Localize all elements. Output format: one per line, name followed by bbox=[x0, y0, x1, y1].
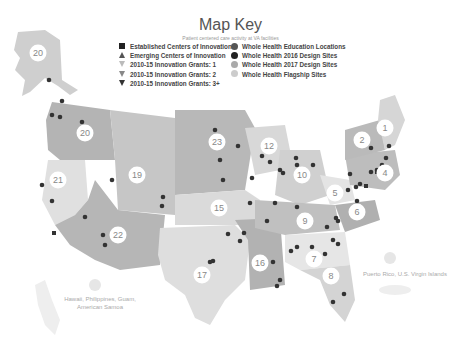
square-icon bbox=[119, 43, 125, 49]
triangle-down-icon bbox=[119, 80, 125, 86]
legend-left: Established Centers of Innovation Emergi… bbox=[118, 42, 232, 88]
legend-item-established: Established Centers of Innovation bbox=[118, 42, 232, 51]
pacific-region-marker bbox=[89, 279, 101, 291]
region-label: 9 bbox=[297, 213, 314, 230]
region-label: 2 bbox=[354, 132, 371, 149]
region-label: 5 bbox=[327, 185, 344, 202]
caribbean-region-marker bbox=[384, 252, 396, 264]
region-label: 22 bbox=[110, 227, 127, 244]
triangle-up-icon bbox=[119, 52, 125, 58]
region-label: 12 bbox=[261, 138, 278, 155]
region-label: 15 bbox=[211, 200, 228, 217]
pacific-islands bbox=[35, 280, 60, 335]
region-label: 7 bbox=[306, 251, 323, 268]
region-label: 6 bbox=[349, 204, 366, 221]
region-label: 1 bbox=[377, 120, 394, 137]
region-label: 20 bbox=[30, 45, 47, 62]
region-23 bbox=[175, 110, 255, 195]
legend-item-grants-1: 2010-15 Innovation Grants: 1 bbox=[118, 60, 232, 69]
legend-item-education: Whole Health Education Locations bbox=[230, 42, 346, 51]
legend-item-emerging: Emerging Centers of Innovation bbox=[118, 51, 232, 60]
legend-item-2016: Whole Health 2016 Design Sites bbox=[230, 51, 346, 60]
region-19 bbox=[110, 110, 175, 215]
region-label: 17 bbox=[194, 267, 211, 284]
circle-icon bbox=[231, 61, 238, 68]
region-label: 19 bbox=[129, 167, 146, 184]
region-label: 21 bbox=[50, 172, 67, 189]
alaska-region bbox=[14, 30, 78, 96]
legend-right: Whole Health Education Locations Whole H… bbox=[230, 42, 346, 79]
legend-item-grants-3: 2010-15 Innovation Grants: 3+ bbox=[118, 79, 232, 88]
region-label: 20 bbox=[77, 125, 94, 142]
triangle-down-icon bbox=[119, 61, 125, 67]
legend-item-2017: Whole Health 2017 Design Sites bbox=[230, 60, 346, 69]
puerto-rico bbox=[379, 285, 411, 295]
legend-item-grants-2: 2010-15 Innovation Grants: 2 bbox=[118, 70, 232, 79]
triangle-down-icon bbox=[119, 71, 125, 77]
circle-icon bbox=[231, 52, 238, 59]
region-label: 4 bbox=[377, 165, 394, 182]
region-label: 23 bbox=[209, 134, 226, 151]
circle-icon bbox=[231, 43, 238, 50]
circle-icon bbox=[231, 70, 238, 77]
region-label: 10 bbox=[294, 167, 311, 184]
region-label: 8 bbox=[323, 268, 340, 285]
caribbean-note: Puerto Rico, U.S. Virgin Islands bbox=[355, 270, 455, 278]
pacific-note: Hawaii, Philippines, Guam, American Samo… bbox=[60, 295, 140, 311]
region-label: 16 bbox=[252, 255, 269, 272]
legend-item-flagship: Whole Health Flagship Sites bbox=[230, 70, 346, 79]
